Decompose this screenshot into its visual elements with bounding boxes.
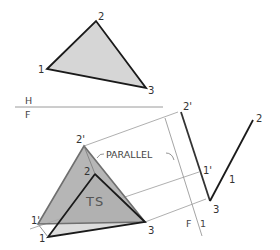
true-size-label: TS: [85, 194, 104, 209]
projector-2prime: [84, 112, 178, 146]
front-vertex-1prime-label: 1': [31, 215, 40, 226]
aux-vertex-3-label: 3: [213, 204, 219, 215]
top-vertex-1-label: 1: [38, 64, 44, 75]
edge-view-line: [210, 120, 253, 201]
aux-vertex-1prime-label: 1': [203, 165, 212, 176]
parallel-leader-right: [166, 153, 174, 160]
aux-vertex-2-label: 2: [256, 113, 262, 124]
front-vertex-1-label: 1: [39, 233, 45, 244]
top-vertex-2-label: 2: [98, 11, 104, 22]
front-vertex-3-label: 3: [148, 225, 154, 236]
descriptive-geometry-drawing: 1 2 3 H F F 1 2' 2 1' 1 3 TS: [0, 0, 280, 250]
fold-label-h: H: [25, 95, 32, 106]
front-vertex-2-label: 2: [84, 166, 90, 177]
top-vertex-3-label: 3: [148, 85, 154, 96]
revolved-edge-view-line: [181, 112, 210, 201]
aux-vertex-1-label: 1: [229, 174, 235, 185]
fold-line-f1: F 1: [165, 118, 206, 236]
fold-line-hf: H F: [15, 95, 163, 120]
top-view: 1 2 3: [38, 11, 154, 96]
front-vertex-2prime-label: 2': [76, 134, 85, 145]
fold-label-f-aux: F: [186, 218, 191, 229]
front-view: 2' 2 1' 1 3 TS PARALLEL: [31, 134, 174, 244]
diagram-canvas: 1 2 3 H F F 1 2' 2 1' 1 3 TS: [0, 0, 280, 250]
fold-label-1-aux: 1: [200, 218, 206, 229]
aux-vertex-2prime-label: 2': [183, 101, 192, 112]
parallel-annotation: PARALLEL: [106, 149, 153, 160]
top-view-triangle: [47, 21, 146, 88]
auxiliary-view: 2' 1' 3 1 2: [181, 101, 262, 215]
parallel-leader-left: [97, 154, 104, 158]
fold-label-f: F: [25, 109, 30, 120]
